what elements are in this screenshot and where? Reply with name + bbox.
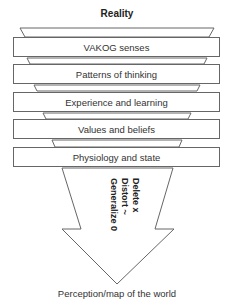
filter-box-patterns: Patterns of thinking (13, 64, 220, 84)
filter-box-experience: Experience and learning (13, 92, 220, 112)
filter-label: VAKOG senses (84, 42, 150, 53)
filter-box-values: Values and beliefs (13, 119, 220, 139)
filter-label: Experience and learning (65, 97, 167, 108)
output-label: Perception/map of the world (0, 288, 234, 299)
filter-label: Patterns of thinking (76, 69, 157, 80)
arrow-line-generalize: Generalize 0 (108, 178, 119, 256)
arrow-line-delete: Delete x (130, 178, 141, 256)
arrow-line-distort: Distort ~ (119, 178, 130, 256)
filter-label: Physiology and state (73, 152, 161, 163)
filter-label: Values and beliefs (78, 124, 155, 135)
filter-box-vakog: VAKOG senses (13, 37, 220, 57)
arrow-text-block: Delete x Distort ~ Generalize 0 (95, 178, 141, 256)
funnel-top-segment (20, 28, 214, 37)
filter-box-physiology: Physiology and state (13, 147, 220, 167)
